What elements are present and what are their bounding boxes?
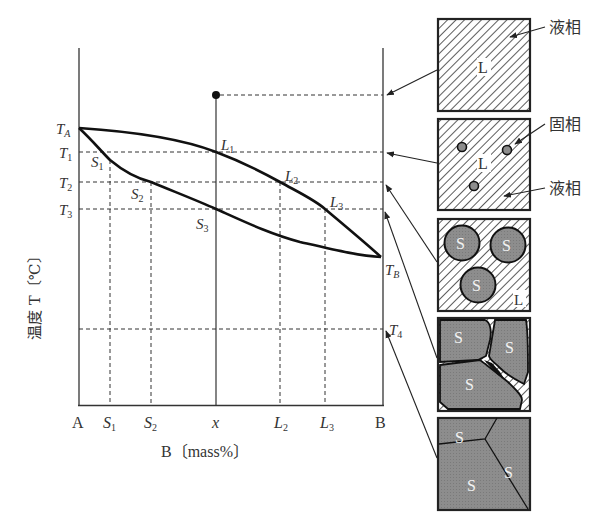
svg-text:TB: TB	[385, 262, 399, 280]
box4-solid-label: S	[465, 376, 474, 393]
y-axis-title: 温度 T〔℃〕	[26, 248, 44, 340]
box5-solid-label: S	[504, 464, 513, 481]
x-tick-labels: A S1 S2 x L2 L3 B	[72, 414, 386, 433]
start-point-dot	[212, 91, 220, 99]
callout-liquid-2: 液相	[549, 179, 581, 198]
arrow-stage-3	[386, 185, 437, 262]
box3-solid-label: S	[472, 277, 481, 294]
solid-nucleus	[470, 182, 479, 191]
box1-liquid-label: L	[478, 59, 488, 76]
svg-text:S2: S2	[144, 414, 157, 433]
tick-A: A	[72, 414, 84, 431]
microstructure-box-1: L	[438, 19, 530, 111]
arrow-stage-1	[387, 70, 437, 95]
tick-S2: S	[144, 414, 152, 431]
svg-text:L2: L2	[284, 168, 298, 186]
svg-text:L1: L1	[220, 137, 234, 155]
box3-solid-label: S	[502, 237, 511, 254]
svg-text:L3: L3	[329, 194, 343, 212]
phase-diagram-figure: TA T1 T2 T3 TB T4 S1 S2 S3 L1 L2 L3 A S1…	[0, 0, 611, 524]
svg-text:T1: T1	[59, 145, 72, 163]
svg-text:L2: L2	[273, 414, 288, 433]
svg-text:S1: S1	[91, 154, 104, 172]
tick-S1: S	[103, 414, 111, 431]
solid-nucleus	[503, 146, 512, 155]
box3-solid-label: S	[456, 235, 465, 252]
svg-text:T4: T4	[389, 322, 402, 340]
arrow-stage-5	[386, 331, 437, 458]
callout-liquid-1: 液相	[549, 18, 581, 37]
svg-text:S1: S1	[103, 414, 116, 433]
svg-text:L3: L3	[319, 414, 334, 433]
solid-nucleus	[458, 143, 467, 152]
microstructure-box-5: S S S	[438, 418, 530, 510]
box5-solid-label: S	[467, 477, 476, 494]
box4-solid-label: S	[454, 329, 463, 346]
box2-liquid-label: L	[478, 155, 488, 172]
tick-L2: L	[273, 414, 283, 431]
label-L2: L	[284, 168, 293, 184]
arrow-stage-2	[387, 153, 437, 163]
microstructure-box-2: L	[438, 119, 530, 210]
label-L3: L	[329, 194, 338, 210]
microstructure-box-3: S S S L	[438, 219, 530, 311]
svg-text:S3: S3	[196, 216, 209, 234]
microstructure-box-4: S S S	[438, 318, 530, 411]
callout-solid: 固相	[549, 115, 581, 134]
tick-B: B	[375, 414, 386, 431]
label-L1: L	[220, 137, 229, 153]
box3-liquid-label: L	[514, 292, 523, 308]
svg-text:T2: T2	[59, 175, 72, 193]
tick-L3: L	[319, 414, 329, 431]
x-axis-title: B〔mass%〕	[161, 443, 249, 460]
svg-text:TA: TA	[56, 121, 71, 139]
svg-text:S2: S2	[131, 186, 144, 204]
box4-solid-label: S	[505, 339, 514, 356]
axes	[78, 48, 384, 406]
box5-solid-label: S	[455, 429, 464, 446]
svg-text:T3: T3	[59, 202, 72, 220]
tick-x: x	[211, 414, 219, 431]
